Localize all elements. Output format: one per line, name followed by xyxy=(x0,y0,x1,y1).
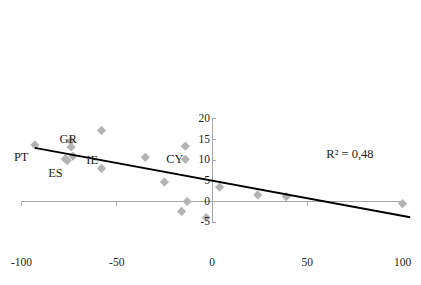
data-point-marker xyxy=(97,126,106,135)
y-tick-label: -5 xyxy=(186,216,210,228)
y-tick-label: 5 xyxy=(186,175,210,187)
y-tick-label: 0 xyxy=(186,196,210,208)
x-tick-label: 100 xyxy=(394,257,411,269)
data-point-markers xyxy=(30,126,407,222)
data-point-marker xyxy=(177,207,186,216)
y-axis-ticks xyxy=(212,119,216,222)
data-point-marker xyxy=(97,164,106,173)
y-tick-label: 15 xyxy=(186,134,210,146)
data-point-marker xyxy=(160,177,169,186)
x-tick-label: -100 xyxy=(11,257,32,269)
x-tick-label: 0 xyxy=(209,257,215,269)
y-tick-label: 20 xyxy=(186,113,210,125)
point-label-es: ES xyxy=(48,167,63,180)
data-point-marker xyxy=(141,153,150,162)
x-tick-label: -50 xyxy=(109,257,124,269)
y-tick-label: 10 xyxy=(186,154,210,166)
point-label-gr: GR xyxy=(60,133,77,146)
data-point-marker xyxy=(253,190,262,199)
x-tick-label: 50 xyxy=(302,257,314,269)
axes-group xyxy=(21,119,404,222)
scatter-chart: -100-50050100 -505101520 GRPTIEESCY R² =… xyxy=(0,0,421,285)
point-label-cy: CY xyxy=(166,153,183,166)
point-label-ie: IE xyxy=(86,154,98,167)
point-label-pt: PT xyxy=(14,151,29,164)
r-squared-annotation: R² = 0,48 xyxy=(326,148,373,161)
data-point-marker xyxy=(398,199,407,208)
data-point-marker xyxy=(215,182,224,191)
